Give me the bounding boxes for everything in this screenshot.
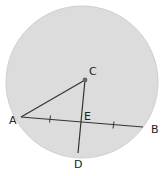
label-e: E <box>84 110 91 123</box>
center-point-icon <box>83 78 88 83</box>
label-d: D <box>74 158 82 171</box>
label-a: A <box>9 114 17 127</box>
label-c: C <box>89 65 97 78</box>
geometry-diagram: A B C D E <box>0 0 165 176</box>
label-b: B <box>151 123 159 136</box>
